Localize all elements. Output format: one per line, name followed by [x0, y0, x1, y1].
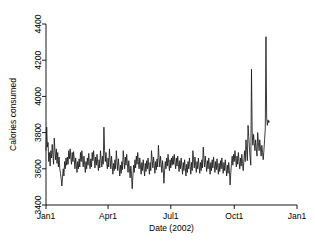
x-tick-label: Oct1 [225, 211, 243, 221]
y-tick-label: 4200 [33, 50, 43, 69]
x-tick-label: Apr1 [99, 211, 117, 221]
y-tick-label: 3600 [33, 159, 43, 178]
calories-time-series-chart: 340036003800400042004400Jan1Apr1Jul1Oct1… [0, 0, 315, 250]
x-tick-label: Jan1 [37, 211, 56, 221]
data-series-line [46, 37, 269, 189]
x-axis-title: Date (2002) [149, 223, 194, 233]
y-axis-title: Calories consumed [8, 78, 18, 151]
x-tick-label: Jan1 [288, 211, 307, 221]
y-tick-label: 4000 [33, 87, 43, 106]
y-tick-label: 3800 [33, 123, 43, 142]
y-tick-label: 4400 [33, 14, 43, 33]
chart-figure: 340036003800400042004400Jan1Apr1Jul1Oct1… [0, 0, 315, 250]
x-tick-label: Jul1 [163, 211, 179, 221]
